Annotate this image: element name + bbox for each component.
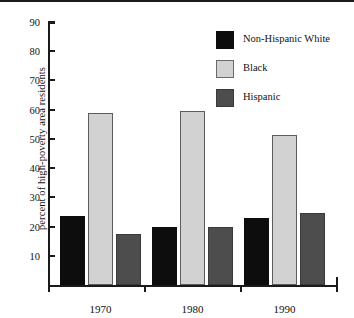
bar xyxy=(300,213,325,285)
x-axis-spine xyxy=(48,285,338,287)
x-axis-tick xyxy=(240,285,242,292)
x-axis-tick xyxy=(144,285,146,292)
y-axis-tick-label: 60 xyxy=(10,104,40,115)
y-axis-tick xyxy=(48,138,55,140)
legend-swatch-icon xyxy=(216,89,234,107)
y-axis-tick-label: 70 xyxy=(10,75,40,86)
x-axis-tick-label: 1980 xyxy=(163,303,223,315)
y-axis-tick xyxy=(48,50,55,52)
y-axis-tick xyxy=(48,226,55,228)
y-axis-tick-label: 10 xyxy=(10,250,40,261)
y-axis-tick-label: 30 xyxy=(10,192,40,203)
bar xyxy=(244,218,269,285)
y-axis-tick xyxy=(48,167,55,169)
chart-figure: percent of high-poverty area residents 1… xyxy=(0,0,354,318)
y-axis-tick xyxy=(48,21,55,23)
figure-top-rule xyxy=(0,0,354,2)
legend-item-label: Non-Hispanic White xyxy=(243,33,330,44)
bar xyxy=(116,234,141,285)
bar xyxy=(272,135,297,285)
y-axis-tick xyxy=(48,79,55,81)
bar xyxy=(180,111,205,285)
plot-area: 102030405060708090 197019801990 xyxy=(48,22,338,285)
y-axis-tick-label: 50 xyxy=(10,133,40,144)
bar xyxy=(208,227,233,285)
x-axis-tick xyxy=(48,285,50,292)
bar xyxy=(60,216,85,285)
legend-item-label: Hispanic xyxy=(243,91,280,102)
legend-swatch-icon xyxy=(216,31,234,49)
y-axis-spine xyxy=(48,22,50,285)
y-axis-tick xyxy=(48,196,55,198)
y-axis-tick-label: 20 xyxy=(10,221,40,232)
y-axis-tick-label: 80 xyxy=(10,46,40,57)
bar xyxy=(88,113,113,285)
legend-item-label: Black xyxy=(243,62,268,73)
y-axis-tick-label: 40 xyxy=(10,163,40,174)
y-axis-tick-label: 90 xyxy=(10,17,40,28)
x-axis-tick xyxy=(336,285,338,292)
y-axis-tick xyxy=(48,255,55,257)
y-axis-tick xyxy=(48,109,55,111)
x-axis-tick-label: 1970 xyxy=(71,303,131,315)
bar xyxy=(152,227,177,285)
x-axis-tick-label: 1990 xyxy=(255,303,315,315)
legend-swatch-icon xyxy=(216,60,234,78)
